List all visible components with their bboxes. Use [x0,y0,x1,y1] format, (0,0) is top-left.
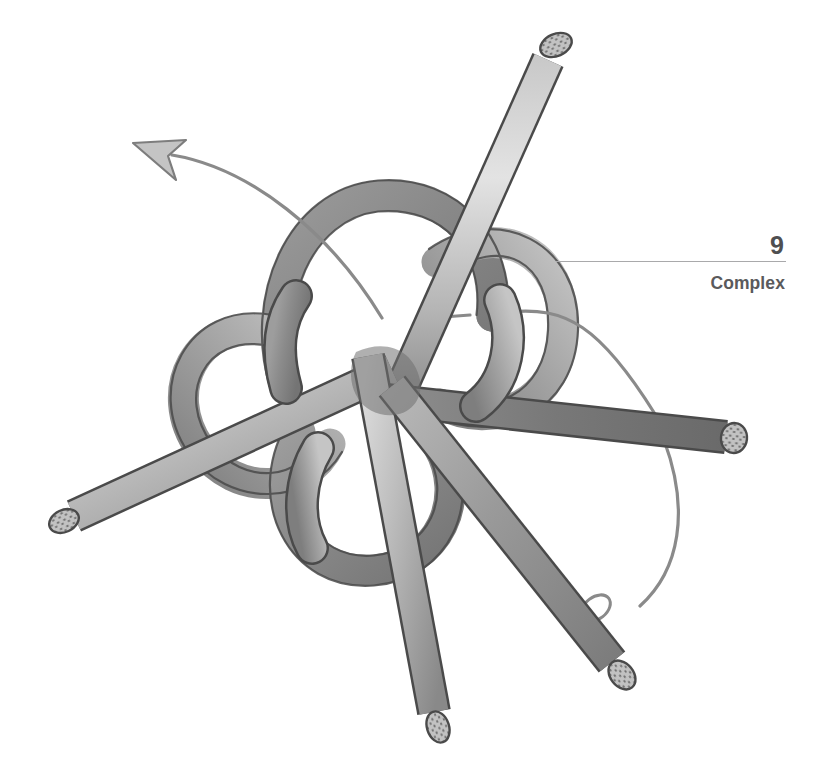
direction-arrow-head [133,140,186,180]
page-canvas: 9 Complex [0,0,821,782]
page-number: 9 [556,232,786,258]
rope-end-top [536,28,575,62]
rope-end-bottom-left [423,708,454,745]
page-header: 9 Complex [556,232,786,293]
header-rule [556,261,786,262]
complex-knot-illustration [0,0,821,782]
section-label: Complex [556,273,786,293]
